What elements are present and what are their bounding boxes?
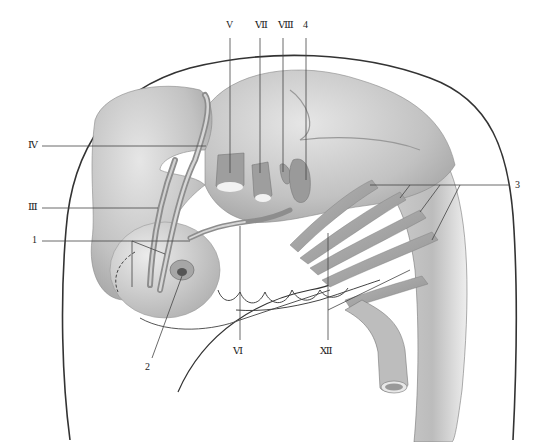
vessel	[345, 300, 408, 392]
label-1: 1	[32, 235, 37, 245]
label-IV: Ⅳ	[28, 140, 38, 150]
label-V: V	[226, 20, 233, 30]
spinal-cord	[380, 170, 467, 442]
label-3: 3	[515, 180, 520, 190]
label-XII: Ⅻ	[320, 346, 333, 356]
label-4: 4	[303, 20, 308, 30]
label-III: Ⅲ	[28, 202, 38, 212]
label-2: 2	[145, 362, 150, 372]
label-VIII: Ⅷ	[278, 20, 294, 30]
label-VII: Ⅶ	[255, 20, 268, 30]
label-VI: Ⅵ	[233, 346, 243, 356]
cranial-nerve-diagram	[0, 0, 548, 442]
